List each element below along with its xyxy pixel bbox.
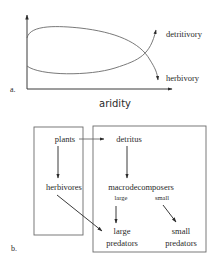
detritivory-label: detritivory <box>166 29 203 39</box>
node-plants: plants <box>55 134 75 144</box>
panel-a-label: a. <box>10 85 16 94</box>
node-large-predators-line2: predators <box>106 238 138 248</box>
node-small-predators-line2: predators <box>165 238 197 248</box>
edge-small-macrodecomposers-small-predators <box>163 205 176 222</box>
node-small-sublabel: small <box>155 194 169 201</box>
node-small-predators-line1: small <box>172 226 191 236</box>
node-large-sublabel: large <box>115 194 128 201</box>
detritivory-curve <box>27 30 156 74</box>
x-axis-label: aridity <box>99 98 131 109</box>
node-macrodecomposers: macrodecomposers <box>108 182 174 192</box>
herbivory-label: herbivory <box>166 73 200 83</box>
edge-herbivores-large-predators <box>57 195 102 231</box>
node-herbivores: herbivores <box>46 182 82 192</box>
diagram-canvas: detritivory herbivory a. aridity plants … <box>0 0 219 266</box>
panel-b-label: b. <box>11 244 17 253</box>
panel-b: plants herbivores detritus macrodecompos… <box>11 126 206 253</box>
node-large-predators-line1: large <box>114 226 131 236</box>
panel-a: detritivory herbivory a. aridity <box>10 15 203 109</box>
node-detritus: detritus <box>116 134 142 144</box>
